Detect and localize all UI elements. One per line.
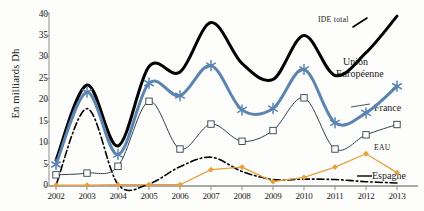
- series-markers-eau: [53, 151, 400, 188]
- series-path-union-europeenne: [56, 65, 397, 164]
- y-tick-marks: [45, 14, 49, 186]
- chart-container: En milliards Dh 40 35 30 25 20 15 10 5 0…: [0, 0, 424, 211]
- label-leader-lines: [351, 18, 372, 176]
- series-markers-france: [53, 95, 400, 178]
- series-markers-union-europeenne: [52, 61, 402, 170]
- series-path-espagne: [56, 109, 397, 191]
- plot-area: [0, 0, 424, 211]
